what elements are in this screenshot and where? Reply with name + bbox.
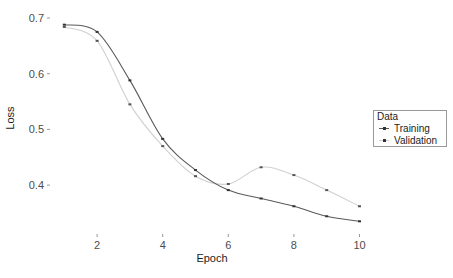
legend-title: Data: [377, 111, 398, 122]
series-lines: [64, 25, 359, 222]
training-point: [63, 24, 66, 26]
training-point: [128, 79, 131, 81]
x-tick-label: 8: [291, 239, 297, 251]
validation-point: [358, 205, 361, 207]
legend-label-validation: Validation: [394, 135, 437, 146]
validation-point: [194, 175, 197, 177]
validation-line-icon: [378, 134, 390, 146]
training-point: [260, 197, 263, 199]
validation-point: [292, 174, 295, 176]
y-tick-label: 0.7: [29, 12, 44, 24]
x-axis-ticks: 246810: [94, 234, 366, 251]
training-point: [227, 189, 230, 191]
legend-item-training: Training: [378, 122, 430, 134]
x-tick-label: 6: [225, 239, 231, 251]
validation-point: [96, 40, 99, 42]
training-point: [194, 169, 197, 171]
y-tick-label: 0.5: [29, 123, 44, 135]
training-line-icon: [378, 122, 390, 134]
training-point: [161, 138, 164, 140]
y-tick-label: 0.4: [29, 179, 44, 191]
y-axis-title: Loss: [4, 106, 16, 130]
validation-point: [161, 145, 164, 147]
x-axis-title: Epoch: [196, 252, 227, 264]
training-point: [96, 31, 99, 33]
training-point: [358, 220, 361, 222]
validation-line: [64, 27, 359, 206]
series-points: [63, 24, 361, 223]
validation-point: [227, 183, 230, 185]
y-tick-label: 0.6: [29, 68, 44, 80]
x-tick-label: 4: [160, 239, 166, 251]
validation-point: [325, 189, 328, 191]
x-tick-label: 2: [94, 239, 100, 251]
validation-point: [260, 166, 263, 168]
training-point: [292, 205, 295, 207]
training-line: [64, 25, 359, 222]
training-point: [325, 215, 328, 217]
validation-point: [128, 103, 131, 105]
y-axis-ticks: 0.40.50.60.7: [29, 12, 50, 191]
legend: Data Training Validation: [373, 110, 447, 147]
x-tick-label: 10: [353, 239, 365, 251]
legend-item-validation: Validation: [378, 134, 437, 146]
legend-label-training: Training: [394, 123, 430, 134]
validation-point: [63, 26, 66, 28]
